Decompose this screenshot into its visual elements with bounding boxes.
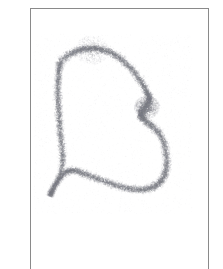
scanned-page <box>0 0 223 269</box>
stippled-flag-artwork <box>0 0 223 269</box>
stipple-canvas <box>0 0 223 269</box>
